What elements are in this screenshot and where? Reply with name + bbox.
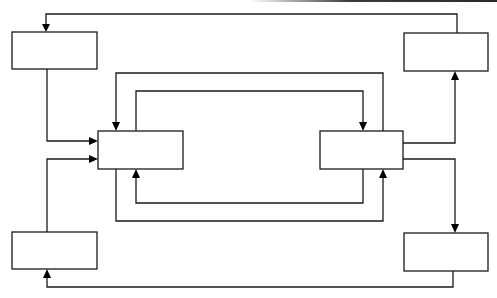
- box-center-left: [98, 131, 183, 169]
- box-top-right: [404, 33, 488, 71]
- box-rect: [12, 232, 97, 269]
- arrowhead-icon: [42, 24, 50, 32]
- arrowhead-icon: [132, 169, 140, 178]
- connector-line: [47, 69, 90, 141]
- connector-line: [136, 169, 363, 203]
- box-top-left: [12, 32, 97, 69]
- connector-center-right-to-bottom-right: [403, 159, 459, 233]
- box-rect: [404, 233, 488, 271]
- arrowhead-icon: [379, 169, 387, 178]
- box-rect: [12, 32, 97, 69]
- arrowhead-icon: [451, 71, 459, 80]
- connector-line: [47, 271, 453, 287]
- arrowhead-icon: [89, 137, 98, 145]
- box-rect: [404, 33, 488, 71]
- connector-center-left-to-center-right: [116, 169, 387, 221]
- connector-center-left-to-center-right: [136, 91, 367, 131]
- box-center-right: [320, 131, 403, 169]
- box-rect: [98, 131, 183, 169]
- connector-line: [403, 159, 455, 226]
- box-bottom-left: [12, 232, 97, 269]
- box-rect: [320, 131, 403, 169]
- box-bottom-right: [404, 233, 488, 271]
- diagram-canvas: [0, 0, 497, 298]
- connector-center-right-to-center-left: [112, 73, 383, 131]
- connector-center-right-to-center-left: [132, 169, 363, 203]
- arrowhead-icon: [89, 155, 98, 163]
- connector-line: [116, 73, 383, 131]
- connector-top-left-to-center-left: [47, 69, 98, 145]
- connector-line: [136, 91, 363, 131]
- connector-line: [46, 14, 457, 33]
- connector-line: [116, 169, 383, 221]
- block-diagram: [0, 0, 497, 298]
- connector-line: [47, 159, 90, 232]
- arrowhead-icon: [451, 224, 459, 233]
- arrowhead-icon: [43, 269, 51, 278]
- connector-line: [403, 78, 455, 143]
- connector-top-right-to-top-left: [42, 14, 457, 33]
- connector-center-right-to-top-right: [403, 71, 459, 143]
- connector-bottom-right-to-bottom-left: [43, 269, 453, 287]
- connector-bottom-left-to-center-left: [47, 155, 98, 232]
- arrowhead-icon: [112, 122, 120, 131]
- arrowhead-icon: [359, 122, 367, 131]
- boxes-layer: [12, 32, 488, 271]
